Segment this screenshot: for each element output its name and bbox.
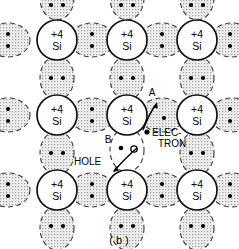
si-atom-r1c0: +4 Si	[37, 95, 77, 135]
si-charge-label: +4	[121, 28, 133, 40]
lattice-diagram-svg: +4 Si +4 Si +4 Si +4 Si +4 S	[0, 0, 239, 249]
silicon-atoms: +4 Si +4 Si +4 Si +4 Si +4 S	[37, 20, 217, 210]
si-element-label: Si	[192, 190, 201, 202]
si-charge-label: +4	[191, 28, 203, 40]
si-charge-label: +4	[51, 28, 63, 40]
bond-v-c2-bottom-edge	[180, 206, 214, 249]
annotation-b-label: B	[105, 134, 112, 145]
si-element-label: Si	[52, 115, 61, 127]
figure-silicon-lattice: +4 Si +4 Si +4 Si +4 Si +4 S	[0, 0, 239, 249]
bond-v-c1-r0r1	[110, 56, 144, 100]
figure-caption: ( b )	[109, 234, 129, 246]
si-atom-r0c2: +4 Si	[177, 20, 217, 60]
free-electron-dot	[144, 129, 149, 134]
si-charge-label: +4	[121, 103, 133, 115]
si-element-label: Si	[122, 190, 131, 202]
si-atom-r2c1: +4 Si	[107, 170, 147, 210]
bond-v-c0-bottom-edge	[40, 206, 74, 249]
si-element-label: Si	[192, 115, 201, 127]
si-atom-r0c1: +4 Si	[107, 20, 147, 60]
si-charge-label: +4	[191, 103, 203, 115]
si-atom-r1c2: +4 Si	[177, 95, 217, 135]
bond-v-c0-r1r2	[40, 131, 74, 175]
electron-label-line2: TRON	[158, 138, 186, 149]
si-element-label: Si	[122, 115, 131, 127]
hole-label: HOLE	[74, 156, 102, 167]
si-atom-r1c1: +4 Si	[107, 95, 147, 135]
bond-electron-dot	[119, 146, 124, 151]
si-element-label: Si	[52, 40, 61, 52]
si-charge-label: +4	[51, 103, 63, 115]
si-element-label: Si	[52, 190, 61, 202]
electron-label-line1: ELEC-	[152, 127, 181, 138]
si-charge-label: +4	[191, 178, 203, 190]
bond-v-c2-r0r1	[180, 56, 214, 100]
si-element-label: Si	[122, 40, 131, 52]
annotation-a-label: A	[149, 87, 156, 98]
bond-v-c0-r0r1	[40, 56, 74, 100]
si-atom-r0c0: +4 Si	[37, 20, 77, 60]
si-charge-label: +4	[51, 178, 63, 190]
si-element-label: Si	[192, 40, 201, 52]
si-charge-label: +4	[121, 178, 133, 190]
si-atom-r2c2: +4 Si	[177, 170, 217, 210]
si-atom-r2c0: +4 Si	[37, 170, 77, 210]
